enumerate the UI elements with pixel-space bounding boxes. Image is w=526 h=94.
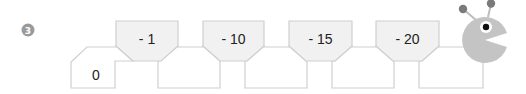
operation-label-4: - 20 [395, 31, 419, 47]
start-value: 0 [92, 67, 100, 83]
operation-label-2: - 10 [221, 31, 245, 47]
problem-number-badge: 3 [22, 24, 35, 37]
answer-input-3[interactable] [334, 64, 396, 88]
operation-label-3: - 15 [308, 31, 332, 47]
badge-number: 3 [25, 26, 31, 36]
answer-input-1[interactable] [160, 64, 222, 88]
left-antenna-ball-icon [459, 5, 467, 13]
eye-pupil-icon [483, 24, 489, 30]
answer-input-4[interactable] [421, 64, 485, 88]
right-antenna-ball-icon [487, 0, 495, 8]
answer-input-2[interactable] [247, 64, 309, 88]
operation-label-1: - 1 [139, 31, 156, 47]
